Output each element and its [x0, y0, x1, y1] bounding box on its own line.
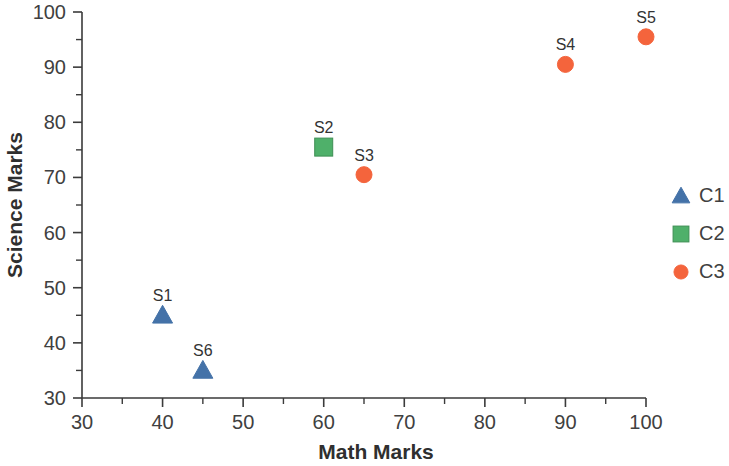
y-tick-label: 80: [44, 111, 66, 133]
x-tick-label: 70: [393, 411, 415, 433]
legend-marker-c1: [672, 187, 690, 203]
chart-container: 3040506070809010030405060708090100Math M…: [0, 0, 729, 466]
y-tick-label: 30: [44, 387, 66, 409]
x-tick-label: 50: [232, 411, 254, 433]
y-tick-label: 100: [33, 1, 66, 23]
y-tick-label: 50: [44, 277, 66, 299]
data-point-label: S6: [193, 342, 213, 359]
data-point-s5: [638, 29, 654, 45]
data-point-label: S4: [556, 36, 576, 53]
y-tick-label: 60: [44, 222, 66, 244]
legend-label-c3: C3: [699, 260, 725, 282]
legend-label-c1: C1: [699, 184, 725, 206]
data-point-label: S1: [153, 287, 173, 304]
data-point-s2: [315, 138, 333, 156]
data-point-s6: [193, 360, 213, 378]
x-tick-label: 60: [313, 411, 335, 433]
data-point-label: S5: [636, 9, 656, 26]
legend-label-c2: C2: [699, 222, 725, 244]
x-tick-label: 100: [629, 411, 662, 433]
data-point-s4: [557, 56, 573, 72]
legend-marker-c3: [674, 265, 688, 279]
data-point-s3: [356, 167, 372, 183]
x-axis-title: Math Marks: [318, 440, 434, 463]
data-point-label: S2: [314, 119, 334, 136]
y-tick-label: 40: [44, 332, 66, 354]
legend-marker-c2: [673, 226, 689, 242]
y-tick-label: 70: [44, 166, 66, 188]
x-tick-label: 90: [554, 411, 576, 433]
y-axis-title: Science Marks: [3, 132, 26, 278]
x-tick-label: 80: [474, 411, 496, 433]
y-tick-label: 90: [44, 56, 66, 78]
data-point-s1: [153, 305, 173, 323]
x-tick-label: 30: [71, 411, 93, 433]
data-point-label: S3: [354, 147, 374, 164]
x-tick-label: 40: [151, 411, 173, 433]
scatter-plot: 3040506070809010030405060708090100Math M…: [0, 0, 729, 466]
